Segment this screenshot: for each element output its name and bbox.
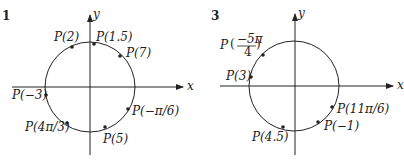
label-p3: P(3) (225, 69, 251, 83)
point-pneg5pi-4 (261, 53, 265, 57)
label-p7: P(7) (125, 46, 151, 60)
point-p11pi-6 (330, 105, 334, 109)
label-p2: P(2) (53, 30, 79, 44)
label-pneg3: P(−3) (11, 88, 47, 102)
figure-1: 1 x y P(2) P(1.5) P(7) P(−3) P(−π/6) P(4… (2, 7, 194, 155)
svg-text:P: P (219, 38, 229, 52)
label-pneg1: P(−1) (323, 119, 359, 133)
svg-text:): ) (256, 37, 261, 51)
label-p11pi-6: P(11π/6) (336, 102, 390, 116)
label-p4pi-3: P(4π/3) (24, 120, 70, 134)
point-p5 (103, 125, 107, 129)
y-axis-label: y (297, 6, 305, 20)
y-axis-label: y (92, 7, 100, 21)
label-p1-5: P(1.5) (95, 30, 133, 44)
figure-number: 1 (2, 9, 10, 23)
label-p5: P(5) (102, 132, 128, 146)
point-pneg-pi-6 (126, 107, 130, 111)
point-pneg1 (316, 120, 320, 124)
label-p4-5: P(4.5) (251, 130, 289, 144)
label-pneg-pi-6: P(−π/6) (131, 104, 179, 118)
point-p7 (118, 54, 122, 58)
figure-3: 3 x y P ( −5π 4 ) P(3) P(11π/6) P(−1) P(… (211, 6, 404, 155)
unit-circle-figures: 1 x y P(2) P(1.5) P(7) P(−3) P(−π/6) P(4… (0, 0, 404, 164)
svg-text:(: ( (230, 37, 235, 51)
x-axis-label: x (187, 79, 194, 93)
x-axis-label: x (397, 78, 404, 92)
point-p4-5 (281, 125, 285, 129)
fraction-denominator: 4 (244, 45, 252, 59)
label-pneg5pi-4: P ( −5π 4 ) (219, 32, 264, 59)
point-p2 (70, 45, 74, 49)
figure-number: 3 (211, 9, 219, 23)
